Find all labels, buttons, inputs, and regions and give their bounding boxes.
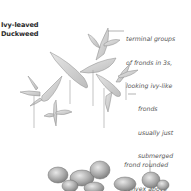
branching-frond-drawing-icon: [20, 28, 138, 126]
rounded-frond-cluster-drawing-icon: [48, 161, 169, 191]
illustration-layer: [0, 0, 191, 191]
leader-lines: [108, 31, 150, 172]
